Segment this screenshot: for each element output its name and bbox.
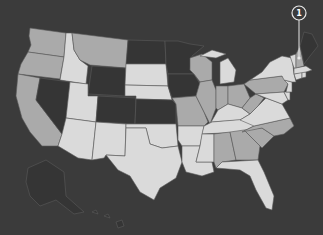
state-ia[interactable]	[168, 74, 200, 98]
state-ri[interactable]	[302, 72, 306, 78]
state-nd[interactable]	[126, 40, 166, 64]
state-ks[interactable]	[135, 99, 176, 124]
callout-label: 1	[296, 9, 302, 18]
state-wy[interactable]	[88, 66, 126, 96]
state-sd[interactable]	[125, 64, 168, 86]
callout-anchor-dot	[297, 56, 300, 59]
state-co[interactable]	[96, 96, 136, 124]
map-canvas: 1	[0, 0, 323, 235]
state-ar[interactable]	[178, 126, 204, 146]
us-choropleth-map: 1	[0, 0, 323, 235]
state-nm[interactable]	[92, 122, 126, 160]
